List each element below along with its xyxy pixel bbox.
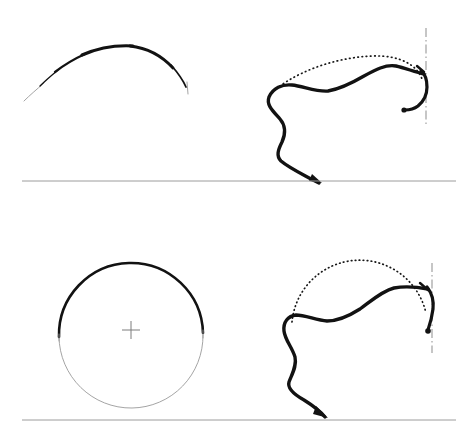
profile-outline: [284, 287, 428, 417]
head-neck-outline: [405, 71, 427, 110]
circle-thin-arc: [59, 335, 203, 408]
panel-top-right: [268, 28, 427, 183]
figure-canvas: [0, 0, 476, 435]
arc-segment-mid-left: [55, 54, 85, 72]
muzzle-dot: [401, 107, 406, 112]
head-neck-outline: [427, 287, 433, 330]
center-cross-marker: [122, 321, 140, 339]
figure-root: Curvature comparison figure single open …: [0, 0, 476, 435]
panel-bottom-left: [59, 263, 203, 408]
dotted-reference-arc: [292, 260, 426, 322]
panel-top-left: [24, 46, 188, 101]
profile-outline: [268, 66, 424, 183]
arc-end-drop: [187, 82, 188, 94]
arc-segment-mid-right: [130, 46, 173, 68]
arc-segment-crest: [82, 46, 133, 55]
panel-bottom-right: [284, 260, 433, 418]
muzzle-dot: [425, 328, 431, 334]
hoof-tip: [309, 174, 322, 183]
dotted-reference-arc: [270, 56, 422, 94]
arc-segment-thin-right: [171, 65, 186, 87]
